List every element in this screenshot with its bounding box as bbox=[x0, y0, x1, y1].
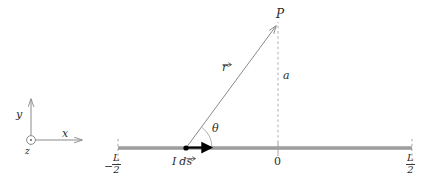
right-endpoint-denominator: 2 bbox=[406, 165, 415, 175]
r-vector-label: r bbox=[222, 62, 227, 73]
current-wire bbox=[118, 147, 412, 148]
right-endpoint-label: L 2 bbox=[406, 153, 415, 175]
ds-vector-letter: s bbox=[186, 155, 192, 168]
right-endpoint-numerator: L bbox=[406, 153, 415, 163]
field-point-label: P bbox=[276, 8, 284, 20]
distance-a-label: a bbox=[283, 70, 290, 81]
z-axis-label: z bbox=[25, 147, 30, 156]
r-vector-letter: r bbox=[222, 61, 227, 74]
current-element-label: Id s bbox=[172, 156, 192, 167]
x-axis-label: x bbox=[62, 128, 68, 139]
z-axis-dot-icon bbox=[30, 139, 32, 141]
figure-canvas: y x z P r a θ 0 Id s − L 2 bbox=[0, 0, 429, 187]
ds-vector-symbol-wrap: s bbox=[186, 156, 192, 167]
r-vector-line bbox=[186, 26, 276, 148]
origin-label: 0 bbox=[274, 156, 281, 167]
r-vector-symbol-wrap: r bbox=[222, 62, 227, 73]
differential-symbol: d bbox=[179, 155, 186, 168]
theta-angle-label: θ bbox=[212, 123, 219, 134]
source-element-marker bbox=[183, 145, 211, 150]
current-symbol: I bbox=[172, 155, 176, 168]
axes-triad bbox=[27, 99, 82, 144]
left-endpoint-numerator: L bbox=[112, 153, 121, 163]
left-endpoint-denominator: 2 bbox=[112, 165, 121, 175]
y-axis-label: y bbox=[16, 109, 22, 120]
left-endpoint-label: L 2 bbox=[112, 153, 121, 175]
theta-arc bbox=[201, 127, 212, 148]
diagram-svg bbox=[0, 0, 429, 187]
